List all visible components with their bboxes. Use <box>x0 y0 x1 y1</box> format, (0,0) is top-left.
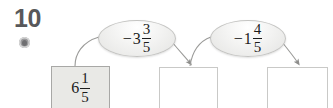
start-value-expression: 6 1 5 <box>71 71 90 105</box>
arrow-op1-to-answer1 <box>172 42 190 63</box>
operation-1-sign: − <box>123 31 133 47</box>
answer-box-2[interactable] <box>267 67 328 108</box>
start-value-whole: 6 <box>71 80 80 96</box>
operation-bubble-2: − 1 4 5 <box>210 20 286 57</box>
operation-2-numerator: 4 <box>253 22 263 38</box>
connector-start-to-op1 <box>75 37 99 66</box>
operation-1-fraction: 3 5 <box>142 22 152 56</box>
operation-2-denominator: 5 <box>253 38 263 55</box>
operation-bubble-1: − 3 3 5 <box>98 20 176 57</box>
operation-1-whole: 3 <box>133 31 142 47</box>
start-value-fraction: 1 5 <box>80 71 90 105</box>
operation-2-whole: 1 <box>244 31 253 47</box>
start-value-box: 6 1 5 <box>51 66 110 108</box>
operation-1-numerator: 3 <box>142 22 152 38</box>
answer-box-1[interactable] <box>159 67 218 108</box>
operation-expression-2: − 1 4 5 <box>234 22 263 56</box>
connector-answer1-to-op2 <box>190 37 211 66</box>
start-value-denominator: 5 <box>80 88 90 105</box>
operation-expression-1: − 3 3 5 <box>123 22 152 56</box>
start-value-numerator: 1 <box>80 71 90 87</box>
arrow-op2-to-answer2 <box>282 42 298 63</box>
operation-1-denominator: 5 <box>142 38 152 55</box>
operation-2-sign: − <box>234 31 244 47</box>
worksheet-problem-canvas: 10 − 3 3 5 − 1 <box>0 0 333 108</box>
operation-2-fraction: 4 5 <box>253 22 263 56</box>
